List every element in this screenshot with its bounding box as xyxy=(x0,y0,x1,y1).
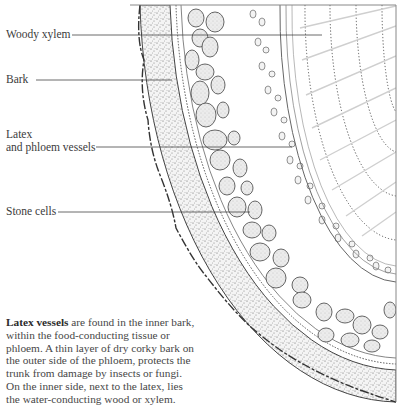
caption-paragraph: Latex vessels are found in the inner bar… xyxy=(6,316,196,406)
woody-xylem-rings xyxy=(305,5,396,240)
label-latex-line2: and phloem vessels xyxy=(6,141,95,154)
label-woody-xylem: Woody xylem xyxy=(6,28,71,41)
label-latex-line1: Latex xyxy=(6,128,32,141)
stone-cells-layer xyxy=(185,9,396,352)
label-stone-cells: Stone cells xyxy=(6,205,56,218)
caption-bold-lead: Latex vessels xyxy=(6,316,68,328)
caption-body: are found in the inner bark, within the … xyxy=(6,316,194,405)
label-bark: Bark xyxy=(6,73,28,86)
